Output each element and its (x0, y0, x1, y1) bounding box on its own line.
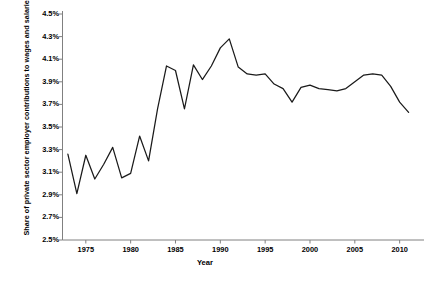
x-axis-title-text: Year (197, 258, 213, 267)
x-tick-label: 1995 (245, 246, 285, 254)
x-tick-label: 2000 (290, 246, 330, 254)
x-tick-label: 1985 (155, 246, 195, 254)
x-tick-label: 2005 (335, 246, 375, 254)
figure-caption (16, 286, 316, 295)
x-tick-label: 1980 (111, 246, 151, 254)
x-axis-title: Year (0, 258, 426, 267)
x-tick-label: 2010 (380, 246, 420, 254)
chart-figure: Share of private sector employer contrib… (0, 0, 426, 295)
x-axis-tick-labels: 19751980198519901995200020052010 (0, 0, 426, 295)
x-tick-label: 1975 (66, 246, 106, 254)
x-tick-label: 1990 (200, 246, 240, 254)
